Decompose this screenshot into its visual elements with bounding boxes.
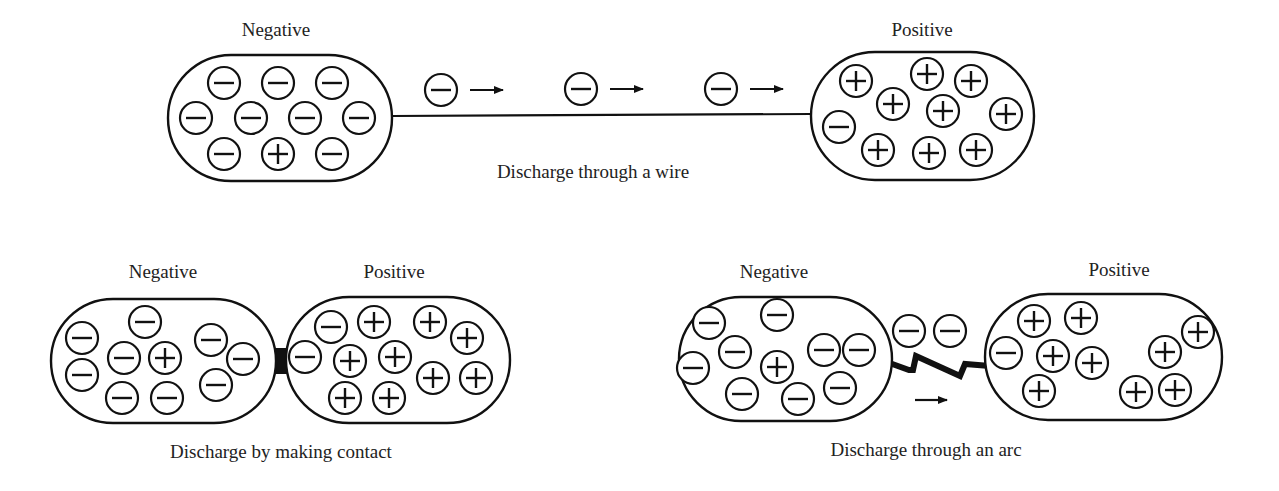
positive-charge-icon (927, 95, 959, 127)
positive-charge-icon (417, 362, 449, 394)
positive-charge-icon (414, 306, 446, 338)
negative-charge-icon (208, 138, 240, 170)
positive-charge-icon (955, 65, 987, 97)
positive-charge-icon (373, 382, 405, 414)
negative-charge-icon (316, 138, 348, 170)
positive-charge-icon (761, 351, 793, 383)
negative-charge-icon (66, 359, 98, 391)
negative-charge-icon (934, 315, 966, 347)
negative-charge-icon (129, 306, 161, 338)
panel-arc (677, 294, 1222, 421)
positive-charge-icon (460, 362, 492, 394)
caption-wire: Discharge through a wire (497, 162, 689, 181)
negative-charge-icon (66, 322, 98, 354)
static-discharge-diagram (0, 0, 1279, 491)
negative-charge-icon (289, 102, 321, 134)
negative-label: Negative (740, 262, 809, 281)
positive-label: Positive (891, 20, 952, 39)
positive-charge-icon (329, 382, 361, 414)
positive-charge-icon (840, 65, 872, 97)
positive-label: Positive (363, 262, 424, 281)
negative-charge-icon (289, 341, 321, 373)
positive-charge-icon (379, 341, 411, 373)
positive-charge-icon (911, 58, 943, 90)
negative-label: Negative (242, 20, 311, 39)
positive-charged-body (985, 294, 1222, 420)
negative-charge-icon (343, 102, 375, 134)
negative-charge-icon (235, 102, 267, 134)
negative-charge-icon (823, 111, 855, 143)
spark-arc (884, 356, 990, 376)
negative-charge-icon (761, 299, 793, 331)
caption-arc: Discharge through an arc (830, 440, 1021, 459)
negative-charge-icon (316, 67, 348, 99)
positive-charge-icon (960, 134, 992, 166)
positive-charge-icon (262, 138, 294, 170)
negative-charge-icon (208, 67, 240, 99)
negative-charge-icon (824, 372, 856, 404)
positive-charge-icon (1159, 374, 1191, 406)
negative-charge-icon (180, 102, 212, 134)
positive-charge-icon (1065, 302, 1097, 334)
negative-charge-icon (705, 73, 737, 105)
positive-charged-body (811, 52, 1034, 180)
positive-charge-icon (451, 322, 483, 354)
negative-charge-icon (782, 383, 814, 415)
positive-charge-icon (1018, 305, 1050, 337)
negative-charge-icon (151, 382, 183, 414)
negative-charge-icon (262, 67, 294, 99)
positive-charge-icon (1076, 347, 1108, 379)
positive-charge-icon (877, 88, 909, 120)
negative-charged-body (168, 55, 392, 181)
negative-charge-icon (726, 378, 758, 410)
negative-charge-icon (227, 343, 259, 375)
positive-charge-icon (149, 342, 181, 374)
positive-charge-icon (1182, 316, 1214, 348)
positive-charge-icon (1149, 336, 1181, 368)
negative-charge-icon (808, 334, 840, 366)
negative-charge-icon (693, 307, 725, 339)
positive-label: Positive (1088, 260, 1149, 279)
negative-charge-icon (200, 369, 232, 401)
positive-charge-icon (1120, 376, 1152, 408)
negative-charge-icon (719, 336, 751, 368)
negative-label: Negative (129, 262, 198, 281)
positive-charge-icon (913, 137, 945, 169)
negative-charge-icon (565, 73, 597, 105)
positive-charge-icon (862, 134, 894, 166)
negative-charge-icon (843, 334, 875, 366)
positive-charge-icon (990, 98, 1022, 130)
negative-charge-icon (315, 311, 347, 343)
negative-charged-body (51, 299, 276, 423)
panel-contact (51, 297, 510, 423)
wire (392, 114, 811, 116)
negative-charge-icon (677, 352, 709, 384)
positive-charge-icon (358, 306, 390, 338)
positive-charged-body (286, 297, 510, 423)
negative-charge-icon (893, 315, 925, 347)
negative-charge-icon (990, 337, 1022, 369)
positive-charge-icon (1023, 375, 1055, 407)
positive-charge-icon (1037, 340, 1069, 372)
negative-charged-body (677, 297, 892, 421)
negative-charge-icon (425, 74, 457, 106)
positive-charge-icon (334, 345, 366, 377)
negative-charge-icon (108, 342, 140, 374)
negative-charge-icon (106, 382, 138, 414)
caption-contact: Discharge by making contact (170, 442, 392, 461)
negative-charge-icon (195, 324, 227, 356)
